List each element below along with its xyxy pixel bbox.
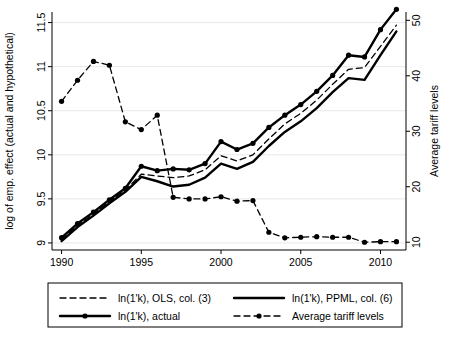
legend-label-0: ln(1'k), OLS, col. (3) — [118, 292, 211, 304]
xtick-label-4: 2010 — [369, 256, 393, 268]
ytick-label-right-0: 10 — [410, 236, 422, 248]
series-2-marker-1 — [75, 221, 80, 226]
series-2-marker-18 — [346, 53, 351, 58]
chart-figure: 99.51010.51111.5102030405019901995200020… — [0, 0, 449, 337]
series-3-marker-11 — [234, 199, 239, 204]
series-2-marker-15 — [298, 102, 303, 107]
series-3-marker-13 — [266, 230, 271, 235]
ytick-label-left-4: 11 — [35, 61, 47, 72]
ytick-label-right-4: 50 — [410, 14, 422, 26]
series-2-marker-13 — [266, 125, 271, 130]
series-3-marker-6 — [155, 113, 160, 118]
series-2-marker-14 — [282, 113, 287, 118]
series-3-marker-7 — [171, 195, 176, 200]
ytick-label-left-5: 11.5 — [35, 13, 47, 33]
series-2-marker-3 — [107, 197, 112, 202]
series-3-marker-4 — [123, 119, 128, 124]
series-2-marker-9 — [202, 161, 207, 166]
series-3-marker-15 — [298, 235, 303, 240]
series-2-marker-20 — [378, 27, 383, 32]
legend-marker-2 — [82, 313, 87, 318]
series-3-marker-17 — [330, 235, 335, 240]
series-2-marker-11 — [234, 147, 239, 152]
series-2-marker-2 — [91, 210, 96, 215]
series-3-marker-19 — [362, 240, 367, 245]
ytick-label-left-3: 10.5 — [35, 100, 47, 121]
series-2-marker-4 — [123, 186, 128, 191]
series-3-marker-1 — [75, 78, 80, 83]
legend-marker-3 — [256, 313, 261, 318]
ytick-label-right-2: 30 — [410, 125, 422, 137]
series-2-marker-5 — [139, 164, 144, 169]
series-3-marker-14 — [282, 235, 287, 240]
series-3-marker-5 — [139, 127, 144, 132]
series-3-marker-3 — [107, 63, 112, 68]
series-2-marker-10 — [218, 139, 223, 144]
ytick-label-left-1: 9.5 — [35, 191, 47, 206]
line-chart: 99.51010.51111.5102030405019901995200020… — [0, 0, 449, 337]
series-2-marker-12 — [250, 141, 255, 146]
chart-background — [0, 0, 449, 337]
series-3-marker-2 — [91, 59, 96, 64]
series-2-marker-0 — [59, 235, 64, 240]
series-2-marker-21 — [394, 7, 399, 12]
legend-label-3: Average tariff levels — [292, 310, 384, 322]
xtick-label-0: 1990 — [50, 256, 74, 268]
series-3-marker-10 — [218, 194, 223, 199]
series-3-marker-20 — [378, 239, 383, 244]
series-2-marker-16 — [314, 89, 319, 94]
series-2-marker-8 — [187, 167, 192, 172]
ytick-label-left-0: 9 — [35, 240, 47, 246]
ytick-label-right-3: 40 — [410, 70, 422, 82]
y-axis-label-right: Average tariff levels — [428, 85, 440, 177]
series-3-marker-16 — [314, 234, 319, 239]
series-2-marker-17 — [330, 73, 335, 78]
ytick-label-right-1: 20 — [410, 181, 422, 193]
legend-label-2: ln(1'k), actual — [118, 310, 180, 322]
xtick-label-2: 2000 — [209, 256, 233, 268]
series-2-marker-19 — [362, 54, 367, 59]
series-3-marker-12 — [250, 198, 255, 203]
ytick-label-left-2: 10 — [35, 149, 47, 161]
series-2-marker-7 — [171, 166, 176, 171]
legend-label-1: ln(1'k), PPML, col. (6) — [292, 292, 393, 304]
xtick-label-1: 1995 — [130, 256, 154, 268]
xtick-label-3: 2005 — [289, 256, 313, 268]
series-3-marker-18 — [346, 235, 351, 240]
series-2-marker-6 — [155, 168, 160, 173]
series-3-marker-21 — [394, 239, 399, 244]
series-3-marker-0 — [59, 99, 64, 104]
series-3-marker-9 — [202, 196, 207, 201]
series-3-marker-8 — [187, 196, 192, 201]
y-axis-label: log of emp. effect (actual and hypotheti… — [3, 32, 15, 230]
